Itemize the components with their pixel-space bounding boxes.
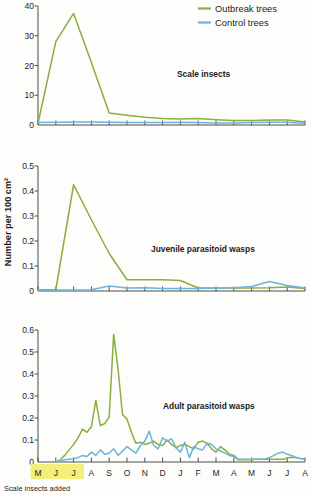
- panel-2-series: [38, 185, 305, 290]
- legend-label-outbreak-trees: Outbreak trees: [215, 3, 277, 14]
- panel-3-y-tick-labels: 00.10.20.30.40.50.6: [22, 325, 34, 467]
- series-outbreak-trees-panel-3: [56, 334, 305, 462]
- panel-1-y-tick-1: 10: [25, 90, 35, 100]
- month-label-11: A: [231, 468, 237, 478]
- panel-2-y-tick-5: 0.5: [22, 161, 34, 171]
- panel-2-y-tick-3: 0.3: [22, 211, 34, 221]
- panel-1-title: Scale insects: [177, 69, 230, 79]
- month-tick-labels: MJJASONDJFMAMJJA: [34, 468, 308, 478]
- panel-3-title: Adult parasitoid wasps: [163, 401, 255, 411]
- month-label-4: S: [106, 468, 112, 478]
- legend: Outbreak trees Control trees: [198, 3, 277, 28]
- month-label-14: J: [285, 468, 289, 478]
- month-label-10: M: [212, 468, 219, 478]
- month-label-12: M: [248, 468, 255, 478]
- panel-1-y-tick-4: 40: [25, 1, 35, 11]
- panel-3-series: [56, 334, 305, 462]
- series-control-trees-panel-3: [56, 431, 305, 462]
- legend-label-control-trees: Control trees: [215, 17, 269, 28]
- month-label-13: J: [267, 468, 271, 478]
- month-label-9: F: [196, 468, 201, 478]
- series-outbreak-trees-panel-2: [38, 185, 305, 290]
- month-label-3: A: [89, 468, 95, 478]
- panel-2-y-tick-0: 0: [29, 286, 34, 296]
- panel-adult-parasitoid-wasps: 00.10.20.30.40.50.6 Adult parasitoid was…: [22, 325, 305, 467]
- panel-1-y-tick-labels: 010203040: [25, 1, 35, 130]
- month-label-7: D: [160, 468, 166, 478]
- panel-3-y-tick-5: 0.5: [22, 347, 34, 357]
- month-label-1: J: [54, 468, 58, 478]
- panel-3-y-tick-3: 0.3: [22, 391, 34, 401]
- panel-2-y-tick-1: 0.1: [22, 261, 34, 271]
- panel-2-y-tick-4: 0.4: [22, 186, 34, 196]
- panel-1-y-tick-0: 0: [29, 120, 34, 130]
- month-label-5: O: [124, 468, 131, 478]
- panel-2-axes: [35, 166, 306, 291]
- panel-2-y-tick-2: 0.2: [22, 236, 34, 246]
- month-label-2: J: [71, 468, 75, 478]
- month-label-15: A: [302, 468, 308, 478]
- month-label-6: N: [142, 468, 148, 478]
- panel-1-y-tick-3: 30: [25, 31, 35, 41]
- series-control-trees-panel-2: [38, 282, 305, 291]
- panel-juvenile-parasitoid-wasps: 00.10.20.30.40.5 Juvenile parasitoid was…: [22, 161, 305, 296]
- y-axis-title: Number per 100 cm²: [3, 178, 13, 266]
- panel-3-y-tick-4: 0.4: [22, 369, 34, 379]
- panel-2-title: Juvenile parasitoid wasps: [151, 244, 255, 254]
- panel-1-series: [38, 13, 305, 123]
- panel-2-y-tick-labels: 00.10.20.30.40.5: [22, 161, 34, 296]
- series-outbreak-trees-panel-1: [38, 13, 305, 123]
- month-label-0: M: [34, 468, 41, 478]
- panel-3-y-tick-2: 0.2: [22, 413, 34, 423]
- month-label-8: J: [178, 468, 182, 478]
- panel-3-y-tick-1: 0.1: [22, 435, 34, 445]
- figure-three-panel-chart: Outbreak trees Control trees Number per …: [0, 0, 311, 495]
- series-control-trees-panel-1: [38, 122, 305, 123]
- month-axis: MJJASONDJFMAMJJA: [31, 464, 309, 479]
- figure-caption: Scale insects added: [4, 484, 70, 493]
- panel-1-y-tick-2: 20: [25, 61, 35, 71]
- panel-3-y-tick-6: 0.6: [22, 325, 34, 335]
